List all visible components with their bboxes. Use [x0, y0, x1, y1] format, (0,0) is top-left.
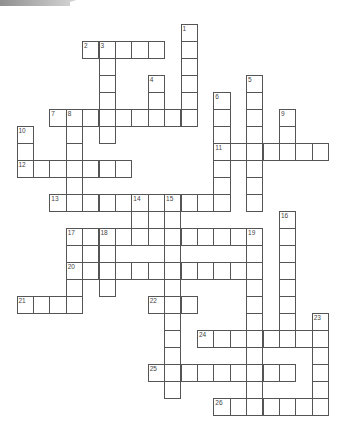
- crossword-cell[interactable]: 3: [99, 41, 116, 59]
- crossword-cell[interactable]: 8: [66, 109, 83, 127]
- crossword-cell[interactable]: [49, 160, 66, 178]
- crossword-cell[interactable]: [131, 262, 148, 280]
- crossword-cell[interactable]: [213, 160, 230, 178]
- crossword-cell[interactable]: [295, 330, 312, 348]
- crossword-cell[interactable]: [263, 398, 280, 416]
- crossword-cell[interactable]: [148, 228, 165, 246]
- crossword-cell[interactable]: [246, 92, 263, 110]
- crossword-cell[interactable]: [213, 126, 230, 144]
- crossword-cell[interactable]: [181, 296, 198, 314]
- crossword-cell[interactable]: [66, 160, 83, 178]
- crossword-cell[interactable]: [99, 262, 116, 280]
- crossword-cell[interactable]: 24: [197, 330, 214, 348]
- crossword-cell[interactable]: [213, 228, 230, 246]
- crossword-cell[interactable]: [230, 364, 247, 382]
- crossword-cell[interactable]: [164, 330, 181, 348]
- crossword-cell[interactable]: [115, 194, 132, 212]
- crossword-cell[interactable]: [213, 177, 230, 195]
- crossword-cell[interactable]: 11: [213, 143, 230, 161]
- crossword-cell[interactable]: [66, 245, 83, 263]
- crossword-cell[interactable]: [246, 381, 263, 399]
- crossword-cell[interactable]: [148, 211, 165, 229]
- crossword-cell[interactable]: [164, 211, 181, 229]
- crossword-cell[interactable]: [164, 109, 181, 127]
- crossword-cell[interactable]: [279, 143, 296, 161]
- crossword-cell[interactable]: [148, 194, 165, 212]
- crossword-cell[interactable]: 19: [246, 228, 263, 246]
- crossword-cell[interactable]: [66, 279, 83, 297]
- crossword-cell[interactable]: [164, 228, 181, 246]
- crossword-cell[interactable]: [246, 262, 263, 280]
- crossword-cell[interactable]: [213, 330, 230, 348]
- crossword-cell[interactable]: [279, 296, 296, 314]
- crossword-cell[interactable]: 5: [246, 75, 263, 93]
- crossword-cell[interactable]: [131, 211, 148, 229]
- crossword-cell[interactable]: [312, 364, 329, 382]
- crossword-cell[interactable]: [279, 245, 296, 263]
- crossword-cell[interactable]: 23: [312, 313, 329, 331]
- crossword-cell[interactable]: [99, 245, 116, 263]
- crossword-cell[interactable]: [246, 347, 263, 365]
- crossword-cell[interactable]: [181, 228, 198, 246]
- crossword-cell[interactable]: [181, 58, 198, 76]
- crossword-cell[interactable]: [181, 75, 198, 93]
- crossword-cell[interactable]: [99, 126, 116, 144]
- crossword-cell[interactable]: 12: [17, 160, 34, 178]
- crossword-cell[interactable]: 6: [213, 92, 230, 110]
- crossword-cell[interactable]: [312, 347, 329, 365]
- crossword-cell[interactable]: 1: [181, 24, 198, 42]
- crossword-cell[interactable]: 13: [49, 194, 66, 212]
- crossword-cell[interactable]: 4: [148, 75, 165, 93]
- crossword-cell[interactable]: [246, 364, 263, 382]
- crossword-cell[interactable]: [115, 160, 132, 178]
- crossword-cell[interactable]: [115, 109, 132, 127]
- crossword-cell[interactable]: [181, 41, 198, 59]
- crossword-cell[interactable]: [82, 109, 99, 127]
- crossword-cell[interactable]: [213, 262, 230, 280]
- crossword-cell[interactable]: [246, 194, 263, 212]
- crossword-cell[interactable]: [246, 313, 263, 331]
- crossword-cell[interactable]: [82, 262, 99, 280]
- crossword-cell[interactable]: [148, 262, 165, 280]
- crossword-cell[interactable]: [164, 347, 181, 365]
- crossword-cell[interactable]: [164, 313, 181, 331]
- crossword-cell[interactable]: [246, 143, 263, 161]
- crossword-cell[interactable]: 16: [279, 211, 296, 229]
- crossword-cell[interactable]: 25: [148, 364, 165, 382]
- crossword-cell[interactable]: 17: [66, 228, 83, 246]
- crossword-cell[interactable]: [148, 41, 165, 59]
- crossword-cell[interactable]: [99, 75, 116, 93]
- crossword-cell[interactable]: [279, 126, 296, 144]
- crossword-cell[interactable]: [295, 143, 312, 161]
- crossword-cell[interactable]: [82, 228, 99, 246]
- crossword-cell[interactable]: [148, 92, 165, 110]
- crossword-cell[interactable]: [263, 143, 280, 161]
- crossword-cell[interactable]: [230, 262, 247, 280]
- crossword-cell[interactable]: [66, 143, 83, 161]
- crossword-cell[interactable]: [181, 262, 198, 280]
- crossword-cell[interactable]: [213, 109, 230, 127]
- crossword-cell[interactable]: [17, 143, 34, 161]
- crossword-cell[interactable]: [197, 262, 214, 280]
- crossword-cell[interactable]: [279, 330, 296, 348]
- crossword-cell[interactable]: [181, 92, 198, 110]
- crossword-cell[interactable]: 22: [148, 296, 165, 314]
- crossword-cell[interactable]: 7: [49, 109, 66, 127]
- crossword-cell[interactable]: [164, 296, 181, 314]
- crossword-cell[interactable]: [312, 381, 329, 399]
- crossword-cell[interactable]: [49, 296, 66, 314]
- crossword-cell[interactable]: [197, 364, 214, 382]
- crossword-cell[interactable]: [230, 330, 247, 348]
- crossword-cell[interactable]: [181, 364, 198, 382]
- crossword-cell[interactable]: [279, 262, 296, 280]
- crossword-cell[interactable]: [164, 364, 181, 382]
- crossword-cell[interactable]: [246, 398, 263, 416]
- crossword-cell[interactable]: [99, 109, 116, 127]
- crossword-cell[interactable]: [33, 296, 50, 314]
- crossword-cell[interactable]: [66, 296, 83, 314]
- crossword-cell[interactable]: [164, 279, 181, 297]
- crossword-cell[interactable]: [99, 279, 116, 297]
- crossword-cell[interactable]: [279, 279, 296, 297]
- crossword-cell[interactable]: [66, 177, 83, 195]
- crossword-cell[interactable]: [164, 381, 181, 399]
